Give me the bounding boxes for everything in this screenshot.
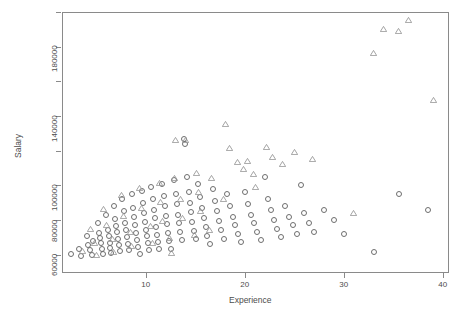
data-point-circle (95, 220, 101, 226)
data-point-circle (112, 216, 118, 222)
data-point-triangle (109, 236, 116, 242)
data-point-circle (103, 212, 109, 218)
x-axis-title: Experience (229, 296, 272, 305)
data-point-triangle (291, 149, 298, 155)
y-axis-title: Salary (14, 134, 23, 158)
x-axis-tick (344, 273, 345, 278)
data-point-circle (155, 239, 161, 245)
data-point-circle (187, 200, 193, 206)
data-point-triangle (309, 156, 316, 162)
data-point-circle (230, 214, 236, 220)
data-point-circle (176, 220, 182, 226)
data-point-circle (204, 233, 210, 239)
data-point-circle (133, 230, 139, 236)
y-axis-tick-label: 100000 (51, 184, 59, 211)
data-point-circle (274, 226, 280, 232)
data-point-circle (271, 217, 277, 223)
data-point-circle (212, 198, 218, 204)
data-point-circle (177, 229, 183, 235)
x-axis-tick-label: 40 (438, 281, 447, 289)
data-point-circle (114, 229, 120, 235)
data-point-circle (184, 174, 190, 180)
y-axis-tick (56, 151, 61, 152)
x-axis-tick-label: 20 (240, 281, 249, 289)
data-point-triangle (120, 213, 127, 219)
data-point-triangle (156, 180, 163, 186)
data-point-triangle (136, 185, 143, 191)
x-axis-tick-label: 30 (339, 281, 348, 289)
data-point-circle (186, 189, 192, 195)
data-point-circle (227, 203, 233, 209)
data-point-circle (131, 214, 137, 220)
data-point-circle (154, 232, 160, 238)
data-point-circle (132, 222, 138, 228)
data-point-triangle (193, 170, 200, 176)
data-point-triangle (171, 175, 178, 181)
data-point-triangle (206, 227, 213, 233)
data-point-triangle (177, 196, 184, 202)
data-point-circle (161, 193, 167, 199)
data-point-circle (144, 233, 150, 239)
data-point-triangle (128, 243, 135, 249)
data-point-circle (100, 251, 106, 257)
data-point-circle (282, 203, 288, 209)
data-point-triangle (179, 215, 186, 221)
y-axis-tick-label: 60000 (51, 254, 59, 276)
data-point-triangle (118, 192, 125, 198)
data-point-triangle (370, 50, 377, 56)
data-point-circle (321, 207, 327, 213)
data-point-circle (265, 196, 271, 202)
data-point-circle (122, 220, 128, 226)
data-point-triangle (250, 171, 257, 177)
data-point-circle (425, 207, 431, 213)
data-point-circle (195, 181, 201, 187)
data-point-circle (258, 237, 264, 243)
data-point-triangle (269, 154, 276, 160)
data-point-circle (298, 182, 304, 188)
data-point-circle (278, 234, 284, 240)
data-point-triangle (147, 223, 154, 229)
data-point-circle (146, 247, 152, 253)
data-point-triangle (93, 252, 100, 258)
y-axis-tick-label: 180000 (51, 46, 59, 73)
data-point-circle (248, 212, 254, 218)
data-point-circle (148, 184, 154, 190)
data-point-triangle (91, 240, 98, 246)
data-point-triangle (226, 145, 233, 151)
data-point-triangle (182, 137, 189, 143)
data-point-circle (331, 217, 337, 223)
data-point-triangle (149, 240, 156, 246)
data-point-circle (189, 219, 195, 225)
data-point-circle (221, 236, 227, 242)
data-point-circle (254, 229, 260, 235)
data-point-triangle (103, 222, 110, 228)
plot-data-area (62, 12, 448, 272)
data-point-triangle (191, 232, 198, 238)
data-point-triangle (166, 235, 173, 241)
data-point-circle (124, 234, 130, 240)
data-point-triangle (430, 97, 437, 103)
x-axis-tick (146, 273, 147, 278)
data-point-triangle (208, 175, 215, 181)
data-point-circle (216, 218, 222, 224)
data-point-circle (130, 205, 136, 211)
data-point-circle (311, 229, 317, 235)
data-point-triangle (380, 26, 387, 32)
data-point-circle (210, 186, 216, 192)
data-point-circle (214, 208, 220, 214)
data-point-circle (129, 191, 135, 197)
data-point-triangle (79, 248, 86, 254)
data-point-circle (207, 241, 213, 247)
data-point-circle (134, 237, 140, 243)
y-axis-tick (56, 12, 61, 13)
data-point-circle (150, 196, 156, 202)
data-point-circle (153, 224, 159, 230)
data-point-circle (301, 210, 307, 216)
data-point-triangle (220, 196, 227, 202)
data-point-triangle (100, 206, 107, 212)
data-point-circle (290, 222, 296, 228)
data-point-triangle (252, 184, 259, 190)
data-point-circle (232, 222, 238, 228)
x-axis-tick (443, 273, 444, 278)
data-point-circle (151, 207, 157, 213)
